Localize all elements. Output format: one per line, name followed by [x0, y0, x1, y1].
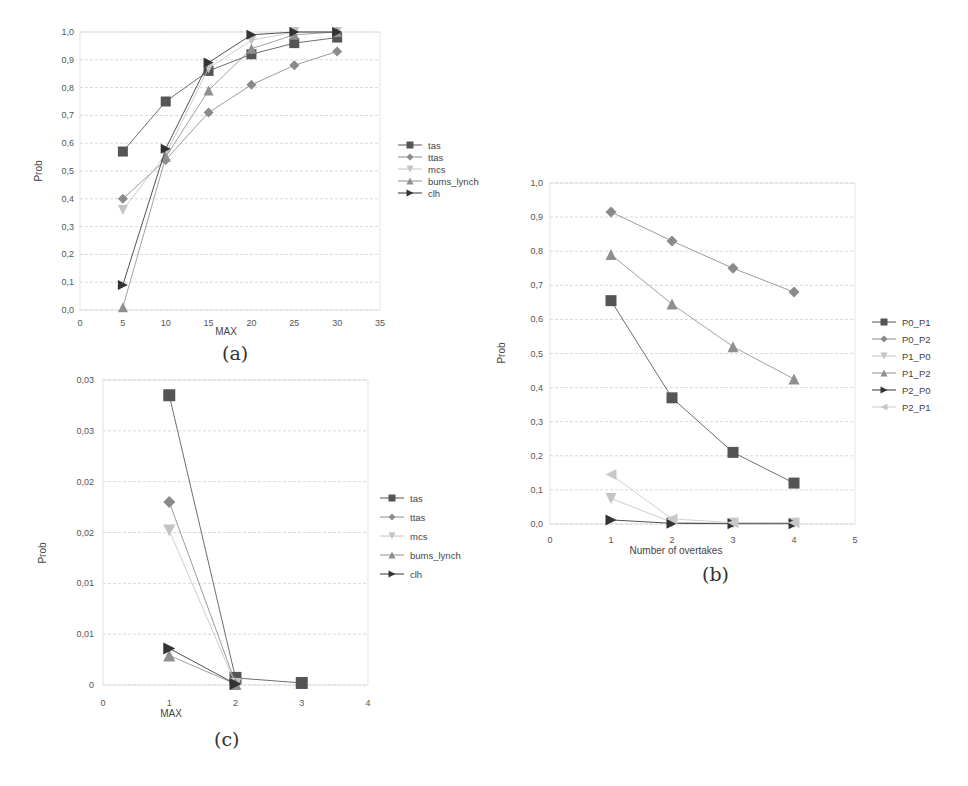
x-tick-label: 10 [161, 318, 171, 328]
series-P1_P2 [606, 249, 800, 384]
y-tick-label: 0,02 [76, 528, 94, 538]
x-axis-label: Number of overtakes [630, 545, 723, 556]
series-P2_P0 [606, 514, 800, 529]
x-tick-label: 3 [730, 535, 735, 545]
x-tick-label: 20 [246, 318, 256, 328]
y-tick-label: 0,3 [530, 417, 543, 427]
y-tick-label: 0,6 [61, 138, 74, 148]
series-line [169, 502, 235, 683]
legend-diamond-icon [881, 336, 888, 343]
legend-square-icon [407, 142, 414, 149]
legend-diamond-icon [389, 514, 396, 521]
y-tick-label: 0,03 [76, 375, 94, 385]
legend-label: P2_P1 [902, 402, 931, 413]
x-tick-label: 0 [100, 698, 105, 708]
legend-label: ttas [428, 152, 444, 163]
x-tick-label: 30 [332, 318, 342, 328]
legend-label: P1_P0 [902, 351, 931, 362]
y-tick-label: 1,0 [530, 178, 543, 188]
y-tick-label: 0,2 [61, 249, 74, 259]
y-tick-label: 0,5 [61, 166, 74, 176]
data-point-triangle-up-icon [246, 44, 256, 54]
data-point-triangle-up-icon [789, 374, 800, 385]
legend-diamond-icon [407, 154, 414, 161]
x-tick-label: 5 [120, 318, 125, 328]
data-point-diamond-icon [728, 263, 739, 274]
data-point-square-icon [728, 447, 739, 458]
legend-square-icon [389, 495, 396, 502]
x-tick-label: 4 [365, 698, 370, 708]
legend-label: P2_P0 [902, 385, 931, 396]
data-point-diamond-icon [606, 206, 617, 217]
y-tick-label: 0,6 [530, 314, 543, 324]
y-axis-label: Prob [33, 160, 44, 182]
y-tick-label: 0,1 [61, 277, 74, 287]
series-line [611, 255, 794, 379]
series-tas [163, 389, 308, 689]
legend-label: bums_lynch [428, 176, 479, 187]
x-tick-label: 15 [204, 318, 214, 328]
data-point-triangle-up-icon [667, 299, 678, 310]
y-tick-label: 0 [89, 680, 94, 690]
y-tick-label: 0,02 [76, 477, 94, 487]
data-point-square-icon [667, 392, 678, 403]
x-tick-label: 1 [167, 698, 172, 708]
caption-c: (c) [214, 728, 239, 750]
data-point-diamond-icon [667, 235, 678, 246]
y-tick-label: 0,9 [530, 212, 543, 222]
legend-label: clh [428, 188, 440, 199]
series-P0_P2 [606, 206, 800, 297]
legend-square-icon [881, 319, 888, 326]
y-tick-label: 0,01 [76, 578, 94, 588]
data-point-square-icon [296, 677, 308, 689]
caption-a: (a) [222, 342, 248, 364]
data-point-triangle-up-icon [118, 302, 128, 312]
series-line [169, 395, 302, 683]
legend-label: bums_lynch [410, 550, 461, 561]
series-line [611, 475, 794, 523]
legend-triangle-left-icon [881, 404, 888, 411]
data-point-diamond-icon [332, 46, 342, 56]
legend-c: tasttasmcsbums_lynchclh [380, 493, 461, 580]
x-tick-label: 0 [77, 318, 82, 328]
series-clh [118, 27, 342, 290]
legend-label: tas [410, 493, 423, 504]
x-tick-label: 1 [608, 535, 613, 545]
legend-label: P0_P1 [902, 317, 931, 328]
y-tick-label: 1,0 [61, 27, 74, 37]
legend-label: mcs [410, 531, 428, 542]
caption-b: (b) [702, 563, 729, 585]
y-axis-label: Prob [37, 542, 48, 564]
y-tick-label: 0,4 [61, 194, 74, 204]
series-P2_P1 [606, 469, 800, 528]
y-tick-label: 0,7 [530, 280, 543, 290]
x-tick-label: 3 [299, 698, 304, 708]
data-point-triangle-down-icon [118, 205, 128, 215]
series-bums_lynch [118, 27, 342, 312]
y-tick-label: 0,0 [61, 305, 74, 315]
series-line [611, 212, 794, 292]
figure-canvas: 0,00,10,20,30,40,50,60,70,80,91,00510152… [0, 0, 968, 786]
x-axis-label: MAX [160, 708, 182, 719]
data-point-diamond-icon [789, 287, 800, 298]
y-tick-label: 0,8 [530, 246, 543, 256]
data-point-square-icon [606, 295, 617, 306]
legend-triangle-right-icon [407, 190, 414, 197]
data-point-square-icon [163, 389, 175, 401]
series-line [169, 648, 235, 684]
y-tick-label: 0,01 [76, 629, 94, 639]
series-line [611, 498, 794, 523]
data-point-square-icon [789, 478, 800, 489]
legend-label: clh [410, 569, 422, 580]
y-tick-label: 0,5 [530, 349, 543, 359]
y-tick-label: 0,2 [530, 451, 543, 461]
data-point-triangle-up-icon [728, 341, 739, 352]
series-line [169, 530, 235, 684]
legend-label: P0_P2 [902, 334, 931, 345]
data-point-diamond-icon [289, 60, 299, 70]
data-point-diamond-icon [246, 80, 256, 90]
legend-label: mcs [428, 164, 446, 175]
data-point-triangle-right-icon [118, 280, 128, 290]
data-point-triangle-down-icon [163, 524, 175, 536]
x-tick-label: 4 [791, 535, 796, 545]
